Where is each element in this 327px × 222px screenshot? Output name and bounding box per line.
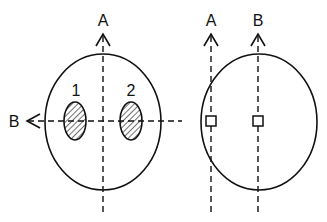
left-figure: A B 1 2 [9, 12, 182, 212]
left-axis-a-label: A [98, 12, 109, 29]
right-axis-b-label: B [253, 12, 264, 29]
region-2-ellipse [120, 102, 142, 140]
right-axis-a-label: A [206, 12, 217, 29]
right-axis-b-marker-square-icon [253, 116, 263, 126]
diagram-canvas: A B 1 2 A B [0, 0, 327, 222]
region-1-ellipse [64, 102, 86, 140]
right-figure: A B [201, 12, 317, 212]
region-2-label: 2 [127, 82, 136, 99]
right-axis-a-marker-square-icon [206, 116, 216, 126]
left-axis-b-label: B [9, 113, 20, 130]
region-1-label: 1 [72, 82, 81, 99]
